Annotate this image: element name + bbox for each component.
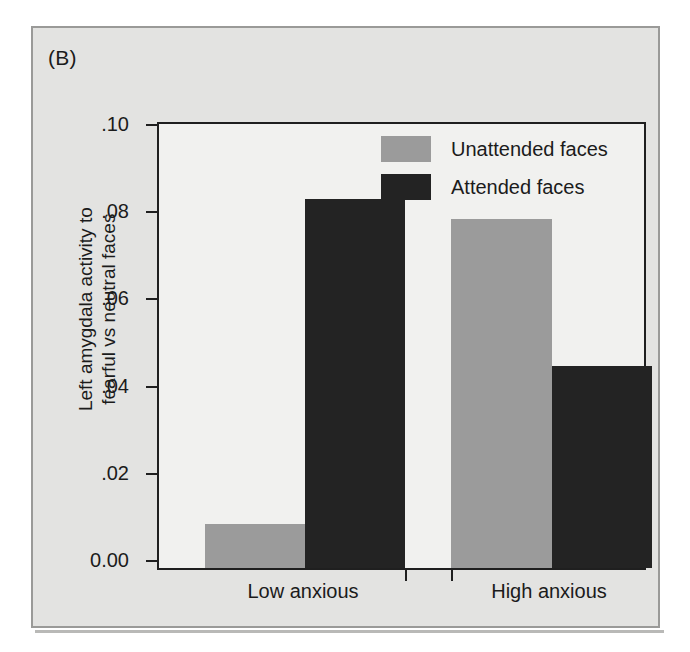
bar-low-anxious-unattended <box>205 524 305 568</box>
bar-low-anxious-attended <box>305 199 405 568</box>
legend-item-unattended: Unattended faces <box>381 136 608 162</box>
figure-panel: (B) Left amygdala activity to fearful vs… <box>31 26 660 628</box>
legend-swatch-icon <box>381 174 431 200</box>
panel-label: (B) <box>48 46 77 70</box>
x-category-label-low-anxious: Low anxious <box>247 580 358 603</box>
bar-high-anxious-unattended <box>451 219 552 568</box>
legend-label: Unattended faces <box>451 138 608 161</box>
y-tick-mark: .10 <box>146 124 159 126</box>
legend-label: Attended faces <box>451 176 584 199</box>
y-tick-label: .02 <box>101 461 129 484</box>
y-axis-title-line1: Left amygdala activity to <box>74 159 97 459</box>
y-tick-mark: .06 <box>146 298 159 300</box>
plot-area: .10 .08 .06 .04 .02 0.00 <box>157 122 646 570</box>
bar-high-anxious-attended <box>552 366 652 568</box>
x-tick-mark <box>451 568 453 581</box>
y-tick-label: 0.00 <box>90 549 129 572</box>
legend: Unattended faces Attended faces <box>381 136 608 212</box>
legend-swatch-icon <box>381 136 431 162</box>
y-tick-mark: .08 <box>146 211 159 213</box>
y-tick-label: .06 <box>101 287 129 310</box>
y-tick-mark: .02 <box>146 473 159 475</box>
y-tick-mark: 0.00 <box>146 560 159 562</box>
legend-item-attended: Attended faces <box>381 174 608 200</box>
x-tick-mark <box>405 568 407 581</box>
x-category-label-high-anxious: High anxious <box>491 580 607 603</box>
y-tick-label: .04 <box>101 374 129 397</box>
plot-inner: .10 .08 .06 .04 .02 0.00 <box>159 124 644 568</box>
y-tick-label: .10 <box>101 113 129 136</box>
y-tick-mark: .04 <box>146 386 159 388</box>
y-tick-label: .08 <box>101 200 129 223</box>
